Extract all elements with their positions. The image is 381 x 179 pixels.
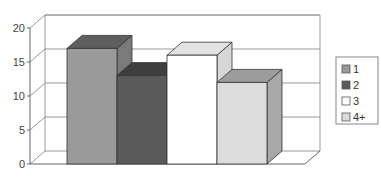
y-tick-label: 10 [13, 90, 25, 102]
legend-swatch-1 [342, 65, 350, 73]
y-tick-label: 15 [13, 56, 25, 68]
y-tick-label: 5 [19, 124, 25, 136]
bar-series-4+ [217, 69, 282, 164]
legend-swatch-4+ [342, 113, 350, 121]
legend-label-1: 1 [353, 63, 359, 75]
legend-label-3: 3 [353, 95, 359, 107]
legend-swatch-2 [342, 81, 350, 89]
y-tick-label: 20 [13, 22, 25, 34]
bar-chart: 05101520 1234+ [0, 0, 381, 179]
y-tick-label: 0 [19, 158, 25, 170]
y-axis-ticks: 05101520 [13, 22, 30, 170]
legend-label-2: 2 [353, 79, 359, 91]
legend-swatch-3 [342, 97, 350, 105]
legend: 1234+ [336, 57, 378, 124]
bars [67, 35, 282, 164]
legend-label-4+: 4+ [353, 111, 366, 123]
